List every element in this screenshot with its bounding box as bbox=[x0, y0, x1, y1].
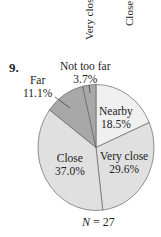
label-not-too-far-name: Not too far bbox=[60, 60, 110, 73]
sample-size-variable: N bbox=[82, 215, 90, 229]
label-not-too-far: Not too far 3.7% bbox=[60, 60, 110, 86]
label-far-name: Far bbox=[23, 74, 52, 87]
label-nearby-value: 18.5% bbox=[99, 118, 133, 131]
sample-size-value: = 27 bbox=[93, 215, 115, 229]
label-very-close: Very close 29.6% bbox=[100, 150, 148, 176]
label-close-name: Close bbox=[55, 152, 85, 165]
pie-chart bbox=[0, 0, 161, 237]
label-close: Close 37.0% bbox=[55, 152, 85, 178]
label-nearby-name: Nearby bbox=[99, 105, 133, 118]
sample-size: N = 27 bbox=[82, 215, 115, 230]
label-nearby: Nearby 18.5% bbox=[99, 105, 133, 131]
label-very-close-value: 29.6% bbox=[100, 163, 148, 176]
label-close-value: 37.0% bbox=[55, 165, 85, 178]
label-not-too-far-value: 3.7% bbox=[60, 73, 110, 86]
label-far-value: 11.1% bbox=[23, 87, 52, 100]
label-far: Far 11.1% bbox=[23, 74, 52, 100]
label-very-close-name: Very close bbox=[100, 150, 148, 163]
